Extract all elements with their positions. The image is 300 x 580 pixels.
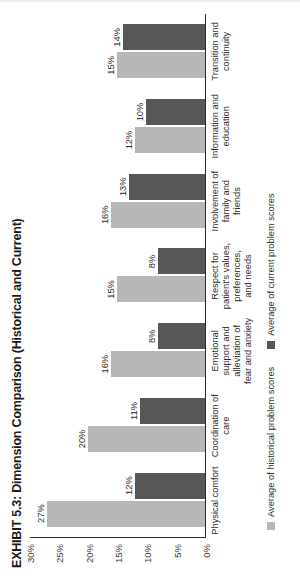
- plot-canvas: 27%12%20%11%16%8%15%8%16%13%12%10%15%14%: [30, 14, 206, 538]
- x-axis-category-label: Coordination of care: [208, 388, 256, 463]
- bar-current[interactable]: 10%: [146, 99, 205, 125]
- legend-item-current: Average of current problem scores: [266, 193, 276, 348]
- x-axis-category-labels: Physical comfortCoordination of careEmot…: [208, 14, 256, 538]
- bar-group: 15%8%: [30, 238, 205, 313]
- bar-historical[interactable]: 20%: [88, 426, 205, 452]
- bar-value-label: 27%: [36, 504, 46, 523]
- y-axis-tick: 5%: [171, 544, 182, 558]
- legend-swatch-historical-icon: [267, 522, 275, 530]
- bar-historical[interactable]: 16%: [111, 351, 205, 377]
- bar-value-label: 15%: [106, 280, 116, 299]
- bar-group: 27%12%: [30, 462, 205, 537]
- bar-value-label: 13%: [118, 177, 128, 196]
- bar-historical[interactable]: 15%: [117, 52, 205, 78]
- bar-value-label: 12%: [124, 476, 134, 495]
- bar-historical[interactable]: 16%: [111, 202, 205, 228]
- bar-value-label: 12%: [124, 131, 134, 150]
- rotated-page-canvas: EXHIBIT 5.3: Dimension Comparison (Histo…: [0, 0, 300, 580]
- bar-value-label: 15%: [106, 56, 116, 75]
- bar-group: 16%13%: [30, 163, 205, 238]
- bar-value-label: 20%: [77, 430, 87, 449]
- bar-current[interactable]: 13%: [129, 174, 205, 200]
- bar-current[interactable]: 8%: [158, 248, 205, 274]
- y-axis-tick: 10%: [142, 544, 153, 563]
- bar-value-label: 10%: [135, 103, 145, 122]
- bar-historical[interactable]: 12%: [135, 127, 205, 153]
- x-axis-category-label: Involvement of family and friends: [208, 164, 256, 239]
- bar-group: 15%14%: [30, 14, 205, 89]
- bar-value-label: 11%: [129, 402, 139, 420]
- bar-historical[interactable]: 27%: [47, 501, 205, 527]
- y-axis-tick: 25%: [54, 544, 65, 563]
- x-axis-category-label: Emotional support and alleviation of fea…: [208, 313, 256, 388]
- bar-value-label: 8%: [147, 329, 157, 342]
- exhibit-page: EXHIBIT 5.3: Dimension Comparison (Histo…: [0, 0, 300, 580]
- y-axis-tick: 20%: [83, 544, 94, 563]
- y-axis-tick: 15%: [113, 544, 124, 563]
- bar-group: 16%8%: [30, 313, 205, 388]
- y-axis-tick: 30%: [25, 544, 36, 563]
- bar-current[interactable]: 8%: [158, 323, 205, 349]
- legend-label-current: Average of current problem scores: [266, 193, 276, 335]
- x-axis-category-label: Information and education: [208, 89, 256, 164]
- bar-value-label: 8%: [147, 255, 157, 268]
- bar-group: 20%11%: [30, 388, 205, 463]
- bar-historical[interactable]: 15%: [117, 276, 205, 302]
- x-axis-category-label: Respect for patient's values, preference…: [208, 239, 256, 314]
- bar-value-label: 16%: [100, 355, 110, 374]
- chart-legend: Average of historical problem scores Ave…: [266, 193, 276, 530]
- legend-label-historical: Average of historical problem scores: [266, 367, 276, 517]
- scan-edge-shadow: [0, 0, 300, 3]
- x-axis-category-label: Transition and continuity: [208, 14, 256, 89]
- legend-item-historical: Average of historical problem scores: [266, 367, 276, 530]
- bar-groups: 27%12%20%11%16%8%15%8%16%13%12%10%15%14%: [30, 14, 205, 537]
- bar-group: 12%10%: [30, 89, 205, 164]
- bar-value-label: 14%: [112, 28, 122, 47]
- bar-value-label: 16%: [100, 205, 110, 224]
- y-axis-tick-labels: 30%25%20%15%10%5%0%: [30, 540, 206, 570]
- legend-swatch-current-icon: [267, 341, 275, 349]
- page-title: EXHIBIT 5.3: Dimension Comparison (Histo…: [10, 14, 24, 568]
- y-axis-tick: 0%: [201, 544, 212, 558]
- bar-current[interactable]: 11%: [140, 398, 205, 424]
- x-axis-category-label: Physical comfort: [208, 463, 256, 538]
- chart-plot-area: 30%25%20%15%10%5%0% 27%12%20%11%16%8%15%…: [30, 14, 235, 570]
- bar-current[interactable]: 12%: [135, 473, 205, 499]
- bar-current[interactable]: 14%: [123, 24, 205, 50]
